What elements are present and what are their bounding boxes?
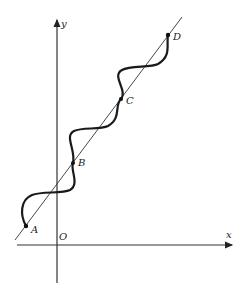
label-a: A (30, 224, 38, 235)
point-d (166, 33, 170, 37)
label-b: B (77, 157, 85, 168)
x-axis-label: x (226, 229, 232, 240)
label-d: D (172, 31, 181, 42)
point-a (24, 224, 28, 228)
y-axis-label: y (60, 18, 67, 29)
label-c: C (126, 95, 134, 106)
point-b (71, 161, 75, 165)
wavy-curve (22, 35, 168, 226)
origin-label: O (59, 231, 67, 242)
point-c (119, 97, 123, 101)
diagram-canvas: A B C D O x y (0, 0, 241, 298)
